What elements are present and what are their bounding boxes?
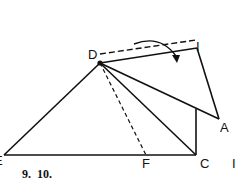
segment-DA bbox=[100, 63, 219, 119]
label-D: D bbox=[88, 47, 97, 62]
label-I: I bbox=[196, 39, 200, 54]
segment-DF-dashed bbox=[100, 63, 146, 155]
segment-IA bbox=[197, 48, 219, 119]
label-A: A bbox=[220, 120, 229, 135]
segment-DI bbox=[100, 48, 197, 63]
label-F: F bbox=[142, 156, 150, 171]
label-edge-mark: I bbox=[232, 156, 236, 171]
segment-DC bbox=[100, 63, 196, 155]
geometry-diagram: D I A C F E I 9. 10. bbox=[0, 0, 236, 181]
segment-ED bbox=[4, 63, 100, 155]
label-C: C bbox=[200, 156, 209, 171]
point-D-dot bbox=[97, 60, 102, 65]
figure-caption: 9. 10. bbox=[22, 167, 52, 181]
arrowhead-icon bbox=[172, 55, 180, 63]
label-E: E bbox=[0, 153, 3, 168]
segment-dashed-original bbox=[100, 40, 196, 54]
